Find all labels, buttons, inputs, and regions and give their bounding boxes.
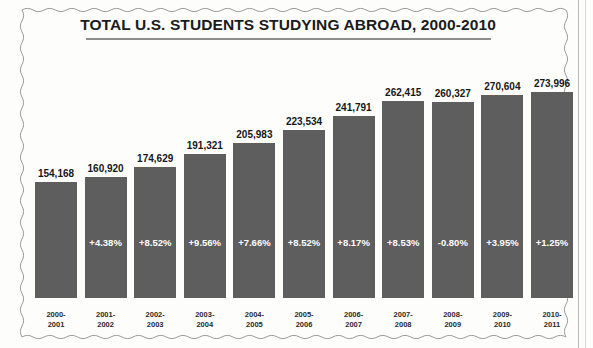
bar [382, 101, 424, 298]
bar-column: 160,920+4.38% [85, 177, 127, 298]
x-label-line2: 2005 [227, 320, 281, 330]
bar-percent-change-label: +8.53% [378, 237, 428, 248]
x-label-line2: 2008 [376, 320, 430, 330]
x-label-line2: 2002 [79, 320, 133, 330]
bar [233, 143, 275, 298]
bar-column: 270,604+3.95% [481, 95, 523, 298]
x-label-line1: 2009- [475, 310, 529, 320]
bar-column: 223,534+8.52% [283, 130, 325, 298]
bar-percent-change-label: +4.38% [81, 237, 131, 248]
x-axis-tick-label: 2006-2007 [333, 310, 375, 336]
x-axis-tick-label: 2001-2002 [85, 310, 127, 336]
x-label-stack: 2003-2004 [178, 310, 232, 330]
x-axis-tick-label: 2000-2001 [35, 310, 77, 336]
x-axis-tick-label: 2009-2010 [481, 310, 523, 336]
x-label-line2: 2011 [525, 320, 579, 330]
x-axis-tick-label: 2004-2005 [233, 310, 275, 336]
bar-value-label: 241,791 [319, 102, 389, 113]
x-label-line1: 2006- [327, 310, 381, 320]
x-label-line1: 2004- [227, 310, 281, 320]
bar-percent-change-label: +9.56% [180, 237, 230, 248]
x-label-line2: 2003 [128, 320, 182, 330]
bar-percent-change-label: +8.52% [279, 237, 329, 248]
x-label-stack: 2008-2009 [426, 310, 480, 330]
bar-column: 205,983+7.66% [233, 143, 275, 298]
x-label-line1: 2010- [525, 310, 579, 320]
x-label-stack: 2010-2011 [525, 310, 579, 330]
bar [35, 182, 77, 298]
x-label-line1: 2002- [128, 310, 182, 320]
x-label-stack: 2007-2008 [376, 310, 430, 330]
bar-value-label: 273,996 [517, 78, 587, 89]
bar-column: 260,327-0.80% [432, 102, 474, 298]
x-label-stack: 2004-2005 [227, 310, 281, 330]
bar-value-label: 191,321 [170, 140, 240, 151]
x-label-line1: 2007- [376, 310, 430, 320]
bar-value-label: 205,983 [219, 129, 289, 140]
bar-column: 191,321+9.56% [184, 154, 226, 298]
bar [531, 92, 573, 298]
bar-column: 241,791+8.17% [333, 116, 375, 298]
x-label-stack: 2001-2002 [79, 310, 133, 330]
bar-percent-change-label: +3.95% [477, 237, 527, 248]
x-label-line2: 2006 [277, 320, 331, 330]
bar-value-label: 160,920 [71, 163, 141, 174]
bar-column: 262,415+8.53% [382, 101, 424, 298]
x-axis-tick-label: 2008-2009 [432, 310, 474, 336]
bar-value-label: 223,534 [269, 116, 339, 127]
x-label-line2: 2007 [327, 320, 381, 330]
x-axis-tick-label: 2003-2004 [184, 310, 226, 336]
bar [333, 116, 375, 298]
bar-percent-change-label: +7.66% [229, 237, 279, 248]
x-label-line2: 2004 [178, 320, 232, 330]
x-axis-tick-label: 2007-2008 [382, 310, 424, 336]
bar-column: 154,168 [35, 182, 77, 298]
bar-percent-change-label: +8.52% [130, 237, 180, 248]
x-label-stack: 2006-2007 [327, 310, 381, 330]
x-label-line1: 2003- [178, 310, 232, 320]
x-label-line2: 2009 [426, 320, 480, 330]
bar [134, 167, 176, 298]
x-axis-tick-label: 2002-2003 [134, 310, 176, 336]
bar-chart-plot-area: 154,1682000-2001160,920+4.38%2001-200217… [0, 0, 593, 348]
x-label-line2: 2010 [475, 320, 529, 330]
x-label-line1: 2005- [277, 310, 331, 320]
bar-column: 273,996+1.25% [531, 92, 573, 298]
bar-value-label: 174,629 [120, 153, 190, 164]
x-label-line2: 2001 [29, 320, 83, 330]
bar-percent-change-label: +1.25% [527, 237, 577, 248]
bar-column: 174,629+8.52% [134, 167, 176, 298]
bar [432, 102, 474, 298]
x-axis-tick-label: 2005-2006 [283, 310, 325, 336]
x-axis-tick-label: 2010-2011 [531, 310, 573, 336]
bar-percent-change-label: +8.17% [329, 237, 379, 248]
x-label-stack: 2000-2001 [29, 310, 83, 330]
x-label-stack: 2005-2006 [277, 310, 331, 330]
x-label-line1: 2008- [426, 310, 480, 320]
bar [283, 130, 325, 298]
bar-percent-change-label: -0.80% [428, 237, 478, 248]
x-label-stack: 2002-2003 [128, 310, 182, 330]
x-label-stack: 2009-2010 [475, 310, 529, 330]
bar [481, 95, 523, 298]
bar [184, 154, 226, 298]
x-label-line1: 2001- [79, 310, 133, 320]
x-label-line1: 2000- [29, 310, 83, 320]
